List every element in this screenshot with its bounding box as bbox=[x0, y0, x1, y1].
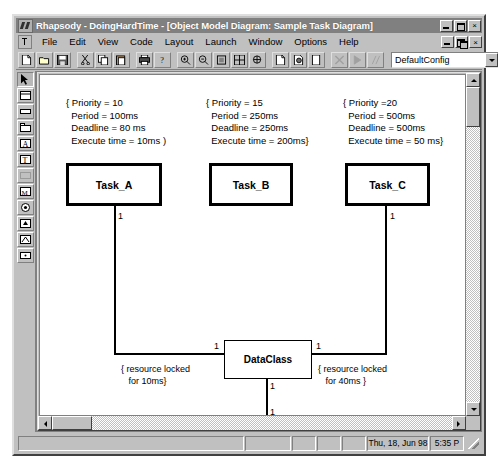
horizontal-scroll-track[interactable] bbox=[52, 416, 452, 430]
zoom-in-icon[interactable] bbox=[177, 52, 194, 68]
class-task-c-label: Task_C bbox=[369, 179, 406, 191]
horizontal-scroll-thumb[interactable] bbox=[52, 416, 92, 430]
application-window: Rhapsody - DoingHardTime - [Object Model… bbox=[12, 14, 486, 456]
scroll-right-button[interactable] bbox=[452, 416, 466, 430]
menu-item-layout[interactable]: Layout bbox=[159, 35, 200, 48]
cut-scissors-icon[interactable] bbox=[77, 52, 94, 68]
mult-task-a: 1 bbox=[118, 211, 123, 221]
menu-item-window[interactable]: Window bbox=[243, 35, 289, 48]
scrollbar-corner bbox=[466, 416, 480, 430]
class-task-a-label: Task_A bbox=[96, 179, 133, 191]
zoom-out-icon[interactable] bbox=[195, 52, 212, 68]
vertical-scroll-thumb[interactable] bbox=[466, 87, 480, 127]
menu-item-edit[interactable]: Edit bbox=[63, 35, 91, 48]
status-pane-3 bbox=[317, 436, 341, 451]
configuration-value: DefaultConfig bbox=[392, 55, 485, 65]
resize-grip[interactable] bbox=[466, 436, 480, 450]
toolbar: ? DefaultConfig bbox=[16, 50, 482, 70]
status-time: 5:35 P bbox=[430, 436, 464, 451]
pan-icon[interactable] bbox=[249, 52, 266, 68]
edit-code-icon[interactable] bbox=[290, 52, 307, 68]
menu-item-code[interactable]: Code bbox=[124, 35, 159, 48]
package-icon[interactable] bbox=[17, 120, 34, 135]
scroll-left-button[interactable] bbox=[38, 416, 52, 430]
class-dataclass[interactable]: DataClass bbox=[224, 340, 312, 379]
maximize-button[interactable] bbox=[454, 20, 467, 32]
vertical-scrollbar[interactable] bbox=[466, 73, 480, 416]
zoom-fit-icon[interactable] bbox=[213, 52, 230, 68]
class-task-b-label: Task_B bbox=[233, 179, 270, 191]
dependency-icon[interactable] bbox=[17, 232, 34, 247]
task-c-constraint-note: { Priority =20 Period = 500ms Deadline =… bbox=[343, 97, 443, 147]
association-icon[interactable]: M bbox=[17, 184, 34, 199]
object-icon[interactable]: T bbox=[17, 152, 34, 167]
diagram-canvas[interactable]: { Priority = 10 Period = 100ms Deadline … bbox=[39, 74, 466, 416]
close-button[interactable]: × bbox=[468, 20, 481, 32]
chevron-down-icon[interactable] bbox=[485, 53, 498, 67]
menu-item-launch[interactable]: Launch bbox=[199, 35, 242, 48]
print-icon[interactable] bbox=[136, 52, 153, 68]
task-a-constraint-note: { Priority = 10 Period = 100ms Deadline … bbox=[66, 97, 166, 147]
status-bar: Thu, 18, Jun 98 5:35 P bbox=[16, 434, 482, 452]
status-pane-1 bbox=[245, 436, 291, 451]
horizontal-scrollbar[interactable] bbox=[38, 416, 466, 430]
document-control-icon[interactable] bbox=[18, 35, 32, 49]
class-box-icon[interactable] bbox=[17, 88, 34, 103]
status-pane-2 bbox=[292, 436, 316, 451]
link-task-a-horizontal bbox=[114, 353, 224, 355]
diagram-window: { Priority = 10 Period = 100ms Deadline … bbox=[37, 72, 481, 431]
menu-item-file[interactable]: File bbox=[36, 35, 63, 48]
scroll-up-button[interactable] bbox=[466, 73, 480, 87]
configuration-combobox[interactable]: DefaultConfig bbox=[391, 52, 498, 68]
generate-code-icon[interactable] bbox=[272, 52, 289, 68]
actor-icon[interactable]: A bbox=[17, 136, 34, 151]
comment-anchor-icon[interactable] bbox=[17, 248, 34, 263]
mdi-restore-button[interactable] bbox=[455, 36, 468, 48]
mdi-client-area: A T M { Priority = 10 Period = 100ms Dea… bbox=[16, 71, 482, 432]
link-task-c-vertical bbox=[385, 206, 387, 354]
menu-item-help[interactable]: Help bbox=[333, 35, 365, 48]
svg-text:A: A bbox=[23, 140, 29, 149]
vertical-scroll-track[interactable] bbox=[466, 87, 480, 402]
rhapsody-icon bbox=[18, 19, 33, 33]
class-task-c[interactable]: Task_C bbox=[345, 163, 430, 206]
class-dataclass-label: DataClass bbox=[244, 354, 292, 365]
note-icon[interactable] bbox=[17, 104, 34, 119]
status-date: Thu, 18, Jun 98 bbox=[367, 436, 429, 451]
svg-text:?: ? bbox=[160, 56, 164, 65]
select-arrow-icon[interactable] bbox=[17, 72, 34, 87]
title-bar: Rhapsody - DoingHardTime - [Object Model… bbox=[16, 18, 482, 33]
menu-bar: File Edit View Code Layout Launch Window… bbox=[16, 34, 482, 49]
class-task-a[interactable]: Task_A bbox=[66, 163, 162, 206]
minimize-button[interactable] bbox=[440, 20, 453, 32]
paste-icon[interactable] bbox=[113, 52, 130, 68]
save-disk-icon[interactable] bbox=[54, 52, 71, 68]
mult-dataclass-bottom: 1 bbox=[270, 381, 275, 391]
open-folder-icon[interactable] bbox=[36, 52, 53, 68]
run-icon[interactable] bbox=[349, 52, 366, 68]
animate-icon[interactable] bbox=[367, 52, 384, 68]
aggregation-icon[interactable] bbox=[17, 200, 34, 215]
link-task-c-horizontal bbox=[312, 353, 387, 355]
browse-icon[interactable] bbox=[308, 52, 325, 68]
scroll-down-button[interactable] bbox=[466, 402, 480, 416]
link-icon[interactable] bbox=[17, 168, 34, 183]
window-title: Rhapsody - DoingHardTime - [Object Model… bbox=[36, 20, 373, 31]
mult-mutex-top: 1 bbox=[270, 407, 275, 416]
tool-palette: A T M bbox=[16, 71, 36, 432]
inheritance-icon[interactable] bbox=[17, 216, 34, 231]
copy-icon[interactable] bbox=[95, 52, 112, 68]
mdi-minimize-button[interactable] bbox=[441, 36, 454, 48]
mdi-close-button[interactable]: × bbox=[469, 36, 482, 48]
menu-item-view[interactable]: View bbox=[92, 35, 124, 48]
new-document-icon[interactable] bbox=[18, 52, 35, 68]
zoom-all-icon[interactable] bbox=[231, 52, 248, 68]
right-resource-constraint: { resource locked for 40ms } bbox=[318, 363, 387, 387]
build-icon[interactable] bbox=[331, 52, 348, 68]
status-message bbox=[18, 436, 244, 451]
status-pane-4 bbox=[342, 436, 366, 451]
class-task-b[interactable]: Task_B bbox=[209, 163, 293, 206]
menu-item-options[interactable]: Options bbox=[288, 35, 333, 48]
left-resource-constraint: { resource locked for 10ms} bbox=[121, 363, 190, 387]
help-question-icon[interactable]: ? bbox=[154, 52, 171, 68]
